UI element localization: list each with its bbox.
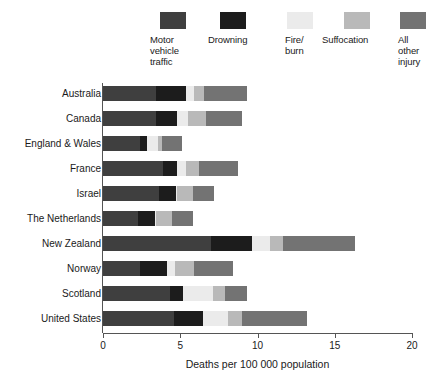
stacked-bar (103, 236, 355, 251)
legend-item-1: Drowning (208, 12, 247, 45)
x-tick-label: 20 (406, 340, 417, 351)
bar-segment (156, 111, 178, 126)
bar-segment (228, 311, 242, 326)
bar-segment (174, 311, 203, 326)
legend-swatch-icon (220, 12, 246, 29)
category-label: Israel (0, 186, 101, 201)
stacked-bar (103, 311, 307, 326)
bar-segment (194, 261, 233, 276)
bar-segment (270, 236, 283, 251)
bar-segment (177, 161, 185, 176)
category-label: Scotland (0, 286, 101, 301)
category-label: The Netherlands (0, 211, 101, 226)
legend-item-3: Suffocation (322, 12, 370, 45)
bar-segment (156, 211, 171, 226)
bar-segment (172, 211, 193, 226)
bar-row: France (103, 158, 412, 183)
x-axis-label: Deaths per 100 000 population (103, 358, 412, 370)
bar-segment (213, 286, 225, 301)
stacked-bar (103, 261, 233, 276)
bar-segment (103, 211, 138, 226)
stacked-bar (103, 111, 242, 126)
x-tick (412, 333, 413, 338)
bar-segment (103, 136, 140, 151)
legend-item-4: All other injury (398, 12, 426, 68)
legend-swatch-icon (344, 12, 370, 29)
bar-row: United States (103, 308, 412, 333)
legend-label: Suffocation (322, 34, 368, 45)
bar-segment (103, 86, 156, 101)
plot-area: 05101520 AustraliaCanadaEngland & WalesF… (103, 83, 412, 333)
legend-label: All other injury (398, 34, 420, 68)
category-label: New Zealand (0, 236, 101, 251)
bar-segment (199, 161, 238, 176)
bar-segment (170, 286, 183, 301)
x-tick (103, 333, 104, 338)
bar-segment (163, 161, 177, 176)
x-tick (335, 333, 336, 338)
bar-segment (203, 311, 228, 326)
category-label: France (0, 161, 101, 176)
bar-segment (103, 236, 211, 251)
bar-segment (188, 111, 207, 126)
legend-item-2: Fire/ burn (285, 12, 313, 56)
bar-row: Norway (103, 258, 412, 283)
bar-row: Israel (103, 183, 412, 208)
category-label: Canada (0, 111, 101, 126)
legend-swatch-icon (160, 12, 186, 29)
bar-segment (147, 136, 158, 151)
x-tick-label: 0 (100, 340, 106, 351)
category-label: Norway (0, 261, 101, 276)
bar-segment (177, 111, 188, 126)
bar-segment (103, 111, 156, 126)
bar-segment (177, 186, 192, 201)
bar-segment (183, 286, 213, 301)
x-tick-label: 15 (329, 340, 340, 351)
category-label: England & Wales (0, 136, 101, 151)
bar-row: The Netherlands (103, 208, 412, 233)
bar-row: Australia (103, 83, 412, 108)
bar-segment (242, 311, 307, 326)
stacked-bar (103, 136, 182, 151)
legend-swatch-icon (400, 12, 426, 29)
bar-segment (103, 186, 159, 201)
bar-segment (206, 111, 242, 126)
chart-legend: Motor vehicle trafficDrowningFire/ burnS… (150, 12, 435, 74)
x-tick (258, 333, 259, 338)
bar-row: Canada (103, 108, 412, 133)
bar-segment (193, 186, 215, 201)
bar-segment (186, 161, 199, 176)
stacked-bar (103, 86, 247, 101)
legend-label: Motor vehicle traffic (150, 34, 179, 68)
bar-segment (175, 261, 194, 276)
bar-row: Scotland (103, 283, 412, 308)
x-tick-label: 5 (177, 340, 183, 351)
bar-segment (138, 211, 155, 226)
legend-item-0: Motor vehicle traffic (150, 12, 186, 68)
bar-segment (162, 136, 181, 151)
bar-segment (140, 136, 147, 151)
bar-segment (103, 261, 140, 276)
category-label: Australia (0, 86, 101, 101)
legend-swatch-icon (287, 12, 313, 29)
bar-segment (186, 86, 194, 101)
stacked-bar (103, 186, 214, 201)
bar-segment (283, 236, 355, 251)
bar-segment (156, 86, 187, 101)
bar-row: New Zealand (103, 233, 412, 258)
legend-label: Fire/ burn (285, 34, 304, 56)
bar-segment (167, 261, 175, 276)
x-tick-label: 10 (252, 340, 263, 351)
bar-segment (103, 286, 170, 301)
bar-segment (204, 86, 247, 101)
bar-segment (225, 286, 247, 301)
bar-segment (211, 236, 252, 251)
bar-segment (103, 161, 163, 176)
bar-segment (194, 86, 204, 101)
bar-rows: AustraliaCanadaEngland & WalesFranceIsra… (103, 83, 412, 333)
bar-segment (140, 261, 167, 276)
category-label: United States (0, 311, 101, 326)
stacked-bar (103, 286, 247, 301)
bar-row: England & Wales (103, 133, 412, 158)
chart-figure: Motor vehicle trafficDrowningFire/ burnS… (0, 0, 443, 383)
